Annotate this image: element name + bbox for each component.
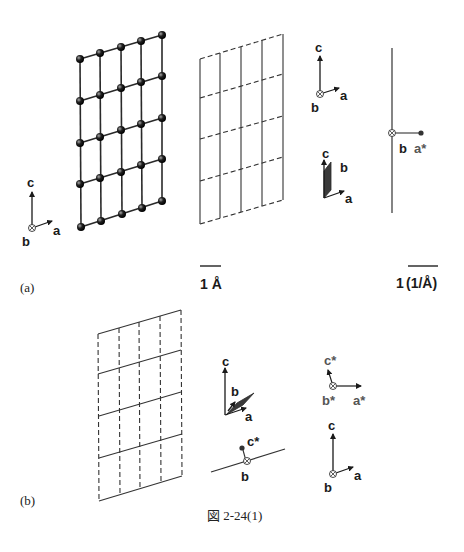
axis-label-b: b [241, 469, 249, 484]
reciprocal-line-b: c* b [211, 434, 285, 484]
axes-star-b: c* b* a* [322, 353, 366, 408]
axis-label-b: b [22, 234, 30, 249]
figure-caption: 図 2-24(1) [207, 508, 262, 523]
lattice-plane-icon [324, 162, 331, 198]
axis-label-b: b [231, 384, 239, 399]
axis-label-c: c [328, 418, 335, 433]
axis-label-c-star: c* [247, 434, 260, 449]
axis-label-a: a [53, 223, 61, 238]
axis-label-b-star: b* [322, 393, 336, 408]
into-page-icon [29, 225, 36, 232]
reciprocal-line-a: b a* [389, 48, 428, 213]
axis-label-a-star: a* [414, 141, 427, 156]
axis-label-c: c [315, 40, 322, 55]
scale-label-real: 1 Å [200, 276, 222, 292]
axis-label-a: a [354, 468, 362, 483]
axis-label-a: a [345, 191, 353, 206]
panel-label-a: (a) [20, 280, 34, 295]
axis-label-c: c [27, 175, 34, 190]
axis-label-b: b [340, 160, 348, 175]
axis-label-b: b [399, 141, 407, 156]
axes-real-b: c a b [324, 418, 362, 495]
into-page-icon [317, 91, 324, 98]
transform-grid-b [98, 310, 182, 501]
axis-label-a-star: a* [353, 393, 366, 408]
axes-right-plane: c b a [322, 146, 353, 206]
figure: c a b [0, 0, 464, 552]
axes-left: c a b [22, 175, 61, 249]
axis-label-b: b [324, 480, 332, 495]
panel-b: c b a c* b c* b [20, 310, 366, 508]
axis-label-b: b [311, 100, 319, 115]
axes-right-top: c a b [311, 40, 348, 115]
axis-label-c: c [222, 354, 229, 369]
axis-label-a: a [245, 409, 253, 424]
axis-label-c: c [322, 146, 329, 161]
scale-bar-real: 1 Å [200, 266, 222, 292]
axis-label-a: a [340, 88, 348, 103]
panel-a: c a b [20, 31, 438, 295]
into-page-icon [244, 458, 251, 465]
scale-label-reciprocal-num: 1 [396, 275, 404, 291]
into-page-icon [330, 383, 337, 390]
panel-label-b: (b) [20, 493, 35, 508]
into-page-icon [389, 130, 396, 137]
scale-label-reciprocal-unit: (1/Å) [406, 275, 437, 291]
into-page-icon [330, 471, 337, 478]
axes-plane-b: c b a [222, 354, 254, 424]
scale-bar-reciprocal: 1 (1/Å) [396, 266, 438, 291]
transform-grid-a [200, 34, 283, 224]
axis-label-c-star: c* [324, 353, 337, 368]
